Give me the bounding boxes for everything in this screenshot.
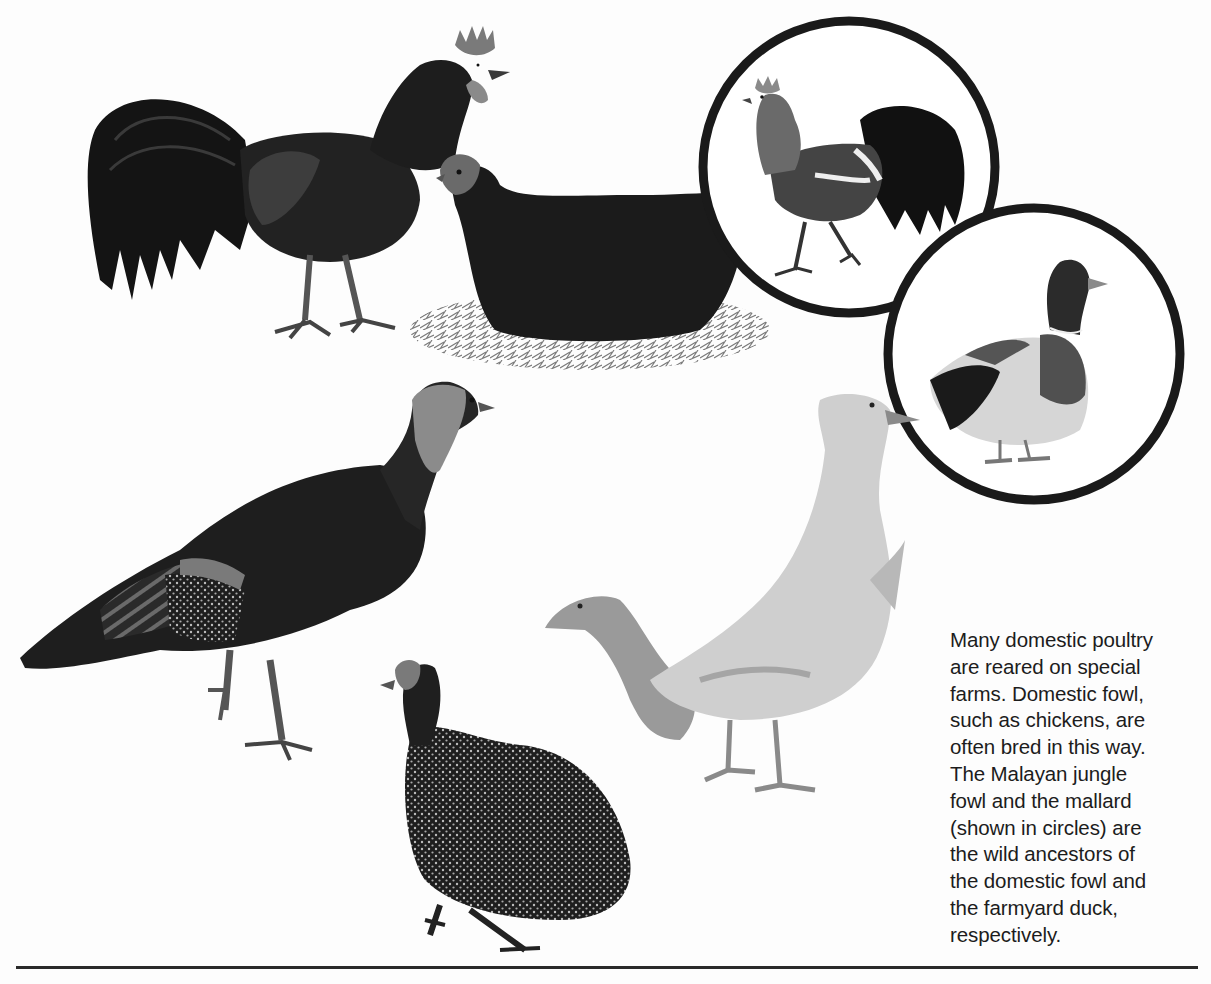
caption-line: The Malayan jungle [950,761,1211,788]
caption-line: are reared on special [950,654,1211,681]
caption-line: such as chickens, are [950,707,1211,734]
domestic-ducks-figure [545,394,920,790]
caption-line: often bred in this way. [950,734,1211,761]
caption-line: farms. Domestic fowl, [950,681,1211,708]
caption-line: the domestic fowl and [950,868,1211,895]
caption-line: respectively. [950,922,1211,949]
book-page: Many domestic poultry are reared on spec… [0,0,1211,984]
caption-line: Many domestic poultry [950,627,1211,654]
caption-line: (shown in circles) are [950,815,1211,842]
caption-line: the farmyard duck, [950,895,1211,922]
guinea-fowl-figure [380,660,631,950]
caption: Many domestic poultry are reared on spec… [950,627,1211,949]
caption-line: the wild ancestors of [950,841,1211,868]
bottom-rule-divider [16,966,1198,969]
caption-line: fowl and the mallard [950,788,1211,815]
circle-mallard [888,208,1180,500]
